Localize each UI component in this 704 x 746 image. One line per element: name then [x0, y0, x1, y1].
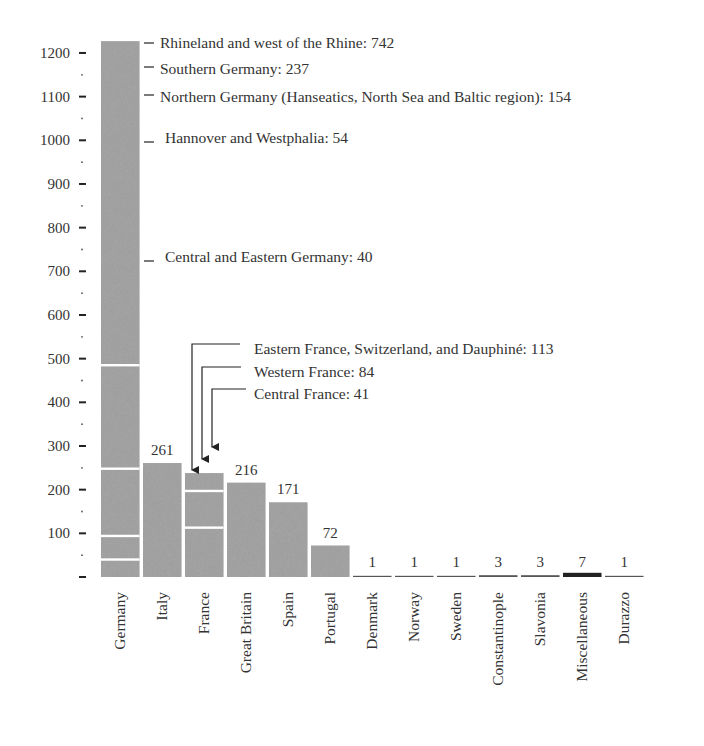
- value-label: 72: [323, 525, 338, 541]
- bar-durazzo: 1: [605, 554, 644, 577]
- y-minor-tick: [81, 336, 83, 338]
- value-label: 1: [621, 554, 629, 570]
- value-label: 261: [151, 442, 174, 458]
- y-minor-tick: [81, 205, 83, 207]
- bars: 261216171721113371: [101, 41, 644, 577]
- x-category-label: Slavonia: [531, 592, 548, 646]
- y-minor-tick: [81, 74, 83, 76]
- bar-constantinople: 3: [479, 554, 518, 577]
- y-tick-label: 400: [48, 394, 71, 410]
- value-label: 171: [277, 481, 300, 497]
- x-category-label: Denmark: [363, 592, 380, 650]
- x-category-label: Portugal: [321, 592, 338, 645]
- bar-france: [185, 473, 224, 577]
- france-segment-annotation: Eastern France, Switzerland, and Dauphin…: [254, 340, 554, 357]
- x-category-label: Italy: [153, 592, 170, 621]
- y-tick-label: 900: [48, 176, 71, 192]
- y-minor-tick: [81, 249, 83, 251]
- france-segment-annotation: Central France: 41: [254, 385, 369, 402]
- germany-segment-annotation: Northern Germany (Hanseatics, North Sea …: [160, 88, 571, 106]
- bar-italy: 261: [143, 442, 182, 577]
- x-category-label: Norway: [405, 592, 422, 642]
- y-tick-label: 300: [48, 438, 71, 454]
- x-category-label: Germany: [111, 592, 128, 650]
- value-label: 1: [411, 554, 419, 570]
- germany-segment-annotation: Southern Germany: 237: [160, 60, 309, 77]
- bar-spain: 171: [269, 481, 308, 577]
- x-category-label: Durazzo: [615, 592, 632, 645]
- bar-norway: 1: [395, 554, 434, 577]
- y-tick-label: 1200: [40, 45, 70, 61]
- x-category-label: Miscellaneous: [573, 592, 590, 682]
- arrow-pointer: [202, 367, 241, 459]
- value-label: 1: [453, 554, 461, 570]
- y-minor-tick: [81, 292, 83, 294]
- value-label: 7: [579, 554, 587, 570]
- annotations: Rhineland and west of the Rhine: 742Sout…: [144, 34, 571, 470]
- x-category-label: Sweden: [447, 592, 464, 641]
- y-minor-tick: [81, 423, 83, 425]
- y-tick-label: 600: [48, 307, 71, 323]
- value-label: 3: [537, 554, 545, 570]
- x-category-label: France: [195, 592, 212, 634]
- bar-portugal: 72: [311, 525, 350, 577]
- bar-great-britain: 216: [227, 462, 266, 577]
- arrow-pointer: [212, 389, 246, 447]
- x-axis-labels: GermanyItalyFranceGreat BritainSpainPort…: [111, 592, 632, 686]
- x-category-label: Spain: [279, 592, 296, 628]
- germany-segment-annotation: Central and Eastern Germany: 40: [165, 248, 373, 265]
- y-tick-label: 1000: [40, 132, 70, 148]
- y-tick-label: 100: [48, 525, 71, 541]
- bar-germany: [101, 41, 140, 577]
- y-tick-label: 800: [48, 220, 71, 236]
- value-label: 216: [235, 462, 258, 478]
- germany-segment-annotation: Rhineland and west of the Rhine: 742: [160, 34, 394, 51]
- x-category-label: Constantinople: [489, 592, 506, 686]
- y-minor-tick: [81, 467, 83, 469]
- y-axis: 100200300400500600700800900100011001200: [40, 45, 86, 577]
- value-label: 1: [369, 554, 377, 570]
- y-minor-tick: [81, 118, 83, 120]
- y-minor-tick: [81, 161, 83, 163]
- bar-denmark: 1: [353, 554, 392, 577]
- bar-sweden: 1: [437, 554, 476, 577]
- bar-slavonia: 3: [521, 554, 560, 577]
- bar-miscellaneous: 7: [563, 554, 602, 577]
- y-minor-tick: [81, 511, 83, 513]
- y-tick-label: 1100: [41, 89, 70, 105]
- value-label: 3: [495, 554, 503, 570]
- y-tick-label: 200: [48, 482, 71, 498]
- germany-segment-annotation: Hannover and Westphalia: 54: [165, 129, 348, 146]
- arrow-pointer: [192, 344, 240, 470]
- y-minor-tick: [81, 554, 83, 556]
- x-category-label: Great Britain: [237, 592, 254, 674]
- y-tick-label: 500: [48, 351, 71, 367]
- france-segment-annotation: Western France: 84: [254, 363, 374, 380]
- y-minor-tick: [81, 380, 83, 382]
- bar-chart: 100200300400500600700800900100011001200 …: [0, 0, 704, 746]
- y-tick-label: 700: [48, 263, 71, 279]
